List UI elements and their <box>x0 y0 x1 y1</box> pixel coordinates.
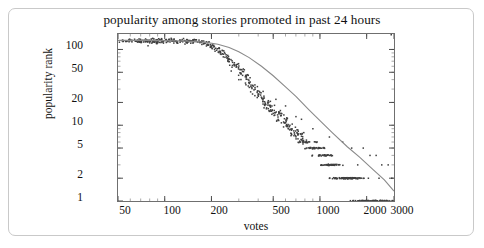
figure-caption-strip: Figure 1 Digg popularity rank versus num… <box>19 235 471 236</box>
chart-area: popularity among stories promoted in pas… <box>9 9 474 221</box>
ytick-label-20: 20 <box>43 93 83 105</box>
figure-card: popularity among stories promoted in pas… <box>8 8 474 236</box>
plot-frame <box>117 33 395 202</box>
ytick-label-50: 50 <box>43 63 83 75</box>
ytick-label-1: 1 <box>43 192 83 204</box>
figure-caption: Figure 1 Digg popularity rank versus num… <box>19 235 343 236</box>
xtick-label-200: 200 <box>199 205 239 217</box>
x-axis-label: votes <box>117 220 395 233</box>
xtick-label-3000: 3000 <box>382 205 422 217</box>
plot-canvas <box>118 34 394 201</box>
ytick-label-10: 10 <box>43 116 83 128</box>
chart-title: popularity among stories promoted in pas… <box>9 12 474 28</box>
y-axis-label: popularity rank <box>42 39 55 129</box>
ytick-label-2: 2 <box>43 169 83 181</box>
xtick-label-1000: 1000 <box>308 205 348 217</box>
ytick-label-5: 5 <box>43 139 83 151</box>
xtick-label-100: 100 <box>152 205 192 217</box>
xtick-label-500: 500 <box>261 205 301 217</box>
xtick-label-50: 50 <box>105 205 145 217</box>
ytick-label-100: 100 <box>43 40 83 52</box>
